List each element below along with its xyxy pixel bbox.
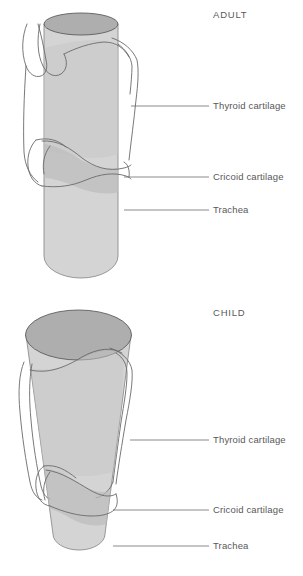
adult-thyroid-overlap — [44, 40, 130, 158]
child-label-cricoid-cartilage: Cricoid cartilage — [213, 504, 284, 515]
child-label-trachea: Trachea — [213, 540, 249, 551]
adult-thyroid-shade — [44, 40, 130, 158]
adult-thyroid-left-lamina — [24, 66, 38, 182]
adult-panel-heading: ADULT — [213, 9, 247, 20]
adult-label-cricoid-cartilage: Cricoid cartilage — [213, 171, 284, 182]
child-cricoid-right-edge — [114, 494, 117, 510]
adult-label-trachea: Trachea — [213, 204, 249, 215]
child-panel: CHILD Thyroid cartilage Cricoid cartilag… — [19, 307, 286, 551]
child-label-thyroid-cartilage: Thyroid cartilage — [213, 434, 286, 445]
child-panel-heading: CHILD — [213, 307, 246, 318]
adult-thyroid-superior-horn-outer — [23, 24, 47, 77]
adult-tube-lumen-opening — [44, 13, 118, 35]
airway-anatomy-figure: ADULT Thyroid cartilage Cricoid cartilag… — [0, 0, 303, 576]
adult-panel: ADULT Thyroid cartilage Cricoid cartilag… — [23, 9, 286, 278]
airway-diagram-canvas: ADULT Thyroid cartilage Cricoid cartilag… — [0, 0, 303, 576]
adult-label-thyroid-cartilage: Thyroid cartilage — [213, 100, 286, 111]
adult-cricoid-right-edge — [124, 162, 129, 177]
